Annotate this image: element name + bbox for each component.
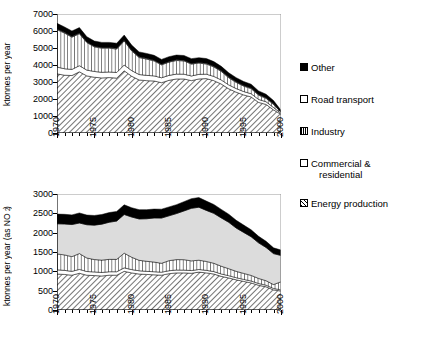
- chart-bottom-svg: [57, 194, 281, 310]
- legend-item-other[interactable]: Other: [300, 62, 335, 73]
- y-tick-label: 1000: [33, 267, 53, 276]
- x-tick-label: 1975: [89, 294, 98, 314]
- y-tick-label: 2000: [33, 228, 53, 237]
- legend-swatch-road-transport-icon: [300, 95, 308, 103]
- legend-label-commercial-residential-line2: residential: [311, 169, 371, 180]
- x-tick-label: 1990: [201, 117, 210, 137]
- legend-label-industry: Industry: [311, 126, 345, 137]
- chart-bottom: ktonnes per year (as NO2) 05001000150020…: [0, 178, 292, 357]
- y-tick-label: 3000: [33, 78, 53, 87]
- legend-label-energy-production: Energy production: [311, 198, 388, 209]
- legend-item-commercial-residential[interactable]: Commercial & residential: [300, 158, 371, 180]
- y-tick-label: 2500: [33, 209, 53, 218]
- legend-swatch-industry-icon: [300, 127, 308, 135]
- chart-bottom-y-ticks: 050010001500200025003000: [19, 194, 53, 310]
- y-axis-label-subscript: 2: [4, 207, 11, 211]
- x-tick-label: 1995: [239, 294, 248, 314]
- y-tick-label: 3000: [33, 190, 53, 199]
- x-tick-label: 1980: [127, 117, 136, 137]
- x-tick-label: 1970: [52, 294, 61, 314]
- chart-top-svg: [57, 14, 281, 133]
- chart-top-y-axis-label: ktonnes per year: [2, 18, 12, 130]
- x-tick-label: 1970: [52, 117, 61, 137]
- chart-bottom-y-axis-label: ktonnes per year (as NO2): [2, 192, 12, 320]
- legend-swatch-commercial-residential-icon: [300, 159, 308, 167]
- legend-item-road-transport[interactable]: Road transport: [300, 94, 374, 105]
- chart-top-plot-area: [57, 14, 281, 133]
- x-tick-label: 1990: [201, 294, 210, 314]
- chart-bottom-plot-area: [57, 194, 281, 310]
- y-tick-label: 2000: [33, 95, 53, 104]
- x-tick-label: 2000: [276, 117, 285, 137]
- legend-swatch-other-icon: [300, 63, 308, 71]
- chart-top: ktonnes per year 01000200030004000500060…: [0, 0, 292, 178]
- y-tick-label: 1000: [33, 112, 53, 121]
- x-tick-label: 1995: [239, 117, 248, 137]
- y-tick-label: 4000: [33, 61, 53, 70]
- legend-label-commercial-residential-line1: Commercial &: [311, 158, 371, 169]
- x-tick-label: 1985: [164, 117, 173, 137]
- legend-item-energy-production[interactable]: Energy production: [300, 198, 388, 209]
- y-tick-label: 6000: [33, 27, 53, 36]
- legend-label-other: Other: [311, 62, 335, 73]
- y-tick-label: 5000: [33, 44, 53, 53]
- y-axis-label-text: ktonnes per year (as NO: [2, 213, 12, 306]
- y-tick-marks: [53, 14, 57, 133]
- legend-label-road-transport: Road transport: [311, 94, 374, 105]
- y-tick-label: 7000: [33, 10, 53, 19]
- x-tick-label: 2000: [276, 294, 285, 314]
- x-tick-label: 1980: [127, 294, 136, 314]
- chart-top-y-ticks: 01000200030004000500060007000: [19, 14, 53, 133]
- y-tick-marks: [53, 194, 57, 310]
- x-tick-label: 1975: [89, 117, 98, 137]
- x-tick-label: 1985: [164, 294, 173, 314]
- legend-swatch-energy-production-icon: [300, 199, 308, 207]
- figure-root: ktonnes per year 01000200030004000500060…: [0, 0, 421, 357]
- y-tick-label: 1500: [33, 248, 53, 257]
- legend-item-industry[interactable]: Industry: [300, 126, 345, 137]
